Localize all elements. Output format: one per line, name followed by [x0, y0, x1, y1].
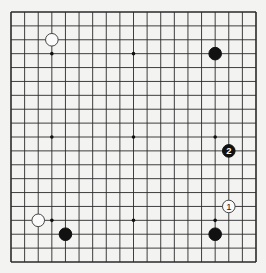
black-stone[interactable] — [59, 228, 72, 241]
star-point — [132, 219, 136, 223]
move-number-label: 1 — [226, 201, 231, 212]
star-point — [50, 219, 54, 223]
star-point — [213, 135, 217, 139]
white-stone[interactable]: 1 — [222, 200, 235, 213]
move-number-label: 2 — [226, 145, 231, 156]
white-stone[interactable] — [32, 214, 45, 227]
white-stone[interactable] — [46, 33, 59, 46]
black-stone[interactable] — [209, 47, 222, 60]
star-point — [50, 135, 54, 139]
star-point — [132, 52, 136, 56]
star-point — [213, 219, 217, 223]
black-stone[interactable]: 2 — [222, 145, 235, 158]
star-point — [50, 52, 54, 56]
black-stone[interactable] — [209, 228, 222, 241]
go-board[interactable]: 21 — [0, 0, 266, 273]
star-point — [132, 135, 136, 139]
